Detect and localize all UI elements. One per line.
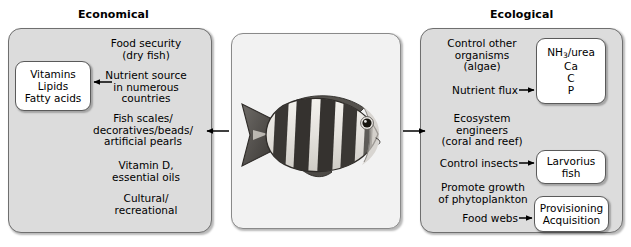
box-provisioning-acquisition: Provisioning Acquisition <box>534 196 609 232</box>
fish-eye <box>362 118 371 127</box>
box-nutrients: Vitamins Lipids Fatty acids <box>15 61 91 111</box>
label-food-security: Food security (dry fish) <box>92 38 200 61</box>
fish-eye-highlight <box>364 120 367 123</box>
box-chemicals-line-1: NH3/urea <box>547 46 595 60</box>
box-nutrients-line-1: Vitamins <box>30 68 76 80</box>
box-nutrients-line-2: Lipids <box>38 80 69 92</box>
box-provisioning-line-2: Acquisition <box>543 214 601 226</box>
label-promote-growth-phytoplankton: Promote growth of phytoplankton <box>424 182 542 205</box>
label-vitamin-d: Vitamin D, essential oils <box>92 160 200 183</box>
box-provisioning-line-1: Provisioning <box>540 202 604 214</box>
label-control-insects: Control insects <box>424 158 518 170</box>
label-fish-scales: Fish scales/ decoratives/beads/ artifici… <box>78 113 208 148</box>
label-cultural-recreational: Cultural/ recreational <box>92 193 200 216</box>
box-chemicals-line-3: C <box>567 72 574 84</box>
chemical-subscript: 3 <box>563 51 568 60</box>
box-chemicals-line-4: P <box>568 84 574 96</box>
label-nutrient-flux: Nutrient flux <box>424 85 518 97</box>
label-nutrient-source: Nutrient source in numerous countries <box>92 70 200 105</box>
box-larvorius-line-2: fish <box>562 167 581 179</box>
box-chemicals: NH3/urea Ca C P <box>536 38 606 104</box>
fish-illustration <box>240 90 392 182</box>
label-ecosystem-engineers: Ecosystem engineers (coral and reef) <box>424 113 540 148</box>
chemical-urea: /urea <box>568 46 595 58</box>
box-larvorius-fish: Larvorius fish <box>536 150 606 184</box>
box-chemicals-line-2: Ca <box>564 60 578 72</box>
heading-ecological: Ecological <box>490 8 553 21</box>
chemical-nh: NH <box>547 46 563 58</box>
label-control-other-organisms: Control other organisms (algae) <box>428 38 536 73</box>
box-nutrients-line-3: Fatty acids <box>25 92 82 104</box>
box-larvorius-line-1: Larvorius <box>547 155 596 167</box>
diagram-canvas: Economical Ecological Food security (dry… <box>0 0 631 247</box>
heading-economical: Economical <box>78 8 149 21</box>
label-food-webs: Food webs <box>424 213 518 225</box>
